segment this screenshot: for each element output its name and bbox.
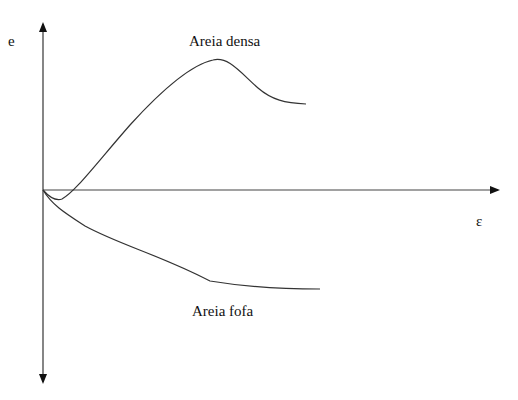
diagram-canvas bbox=[0, 0, 518, 400]
dense-sand-label: Areia densa bbox=[189, 33, 260, 50]
loose-sand-label: Areia fofa bbox=[192, 303, 253, 320]
x-axis-label: ε bbox=[476, 213, 482, 230]
loose-sand-curve bbox=[43, 190, 320, 289]
dense-sand-curve bbox=[43, 59, 306, 199]
y-axis-label: e bbox=[8, 33, 15, 50]
